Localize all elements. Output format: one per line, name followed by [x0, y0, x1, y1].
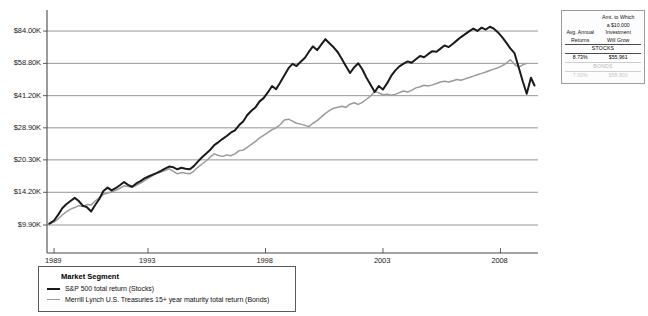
x-tick-label: 2003	[374, 256, 390, 265]
header-avg-annual-returns: Avg. Annual Returns	[565, 14, 595, 45]
segment-row-bonds: BONDS	[565, 63, 641, 72]
summary-table: Avg. Annual Returns Amt. to Which a $10,…	[561, 10, 645, 84]
stocks-amount-grown: $55,961	[595, 53, 641, 61]
summary-table-grid: Avg. Annual Returns Amt. to Which a $10,…	[565, 14, 641, 79]
legend-item-bonds[interactable]: Merrill Lynch U.S. Treasuries 15+ year m…	[47, 296, 289, 303]
x-tick-label: 1993	[139, 256, 155, 265]
chart-page: $84.00K$58.80K$41.20K$28.90K$20.30K$14.2…	[0, 0, 648, 316]
y-tick-label: $41.20K	[14, 91, 41, 100]
y-axis-ticks	[43, 31, 47, 225]
bonds-avg-annual-return: 7.93%	[565, 71, 595, 79]
legend-swatch-bonds-icon	[47, 299, 60, 300]
segment-label-bonds: BONDS	[565, 63, 641, 72]
legend-swatch-stocks-icon	[47, 288, 60, 290]
x-axis-ticks	[54, 248, 500, 253]
chart-plot	[0, 0, 545, 262]
gridlines	[47, 31, 538, 225]
x-tick-label: 1989	[45, 256, 61, 265]
chart-container: $84.00K$58.80K$41.20K$28.90K$20.30K$14.2…	[0, 0, 545, 262]
summary-table-header: Avg. Annual Returns Amt. to Which a $10,…	[565, 14, 641, 45]
stocks-avg-annual-return: 8.73%	[565, 53, 595, 61]
chart-legend: Market Segment S&P 500 total return (Sto…	[38, 266, 296, 312]
legend-label-bonds: Merrill Lynch U.S. Treasuries 15+ year m…	[65, 296, 269, 303]
series-bonds-line	[49, 60, 526, 224]
segment-row-stocks: STOCKS	[565, 45, 641, 54]
x-tick-label: 2008	[491, 256, 507, 265]
value-row-stocks: 8.73% $55,961	[565, 53, 641, 61]
y-tick-label: $14.20K	[14, 187, 41, 196]
legend-item-stocks[interactable]: S&P 500 total return (Stocks)	[47, 285, 289, 292]
legend-title: Market Segment	[61, 272, 289, 281]
y-tick-label: $9.90K	[18, 220, 41, 229]
summary-table-body-bonds: BONDS 7.93% $58,800	[565, 63, 641, 80]
bonds-amount-grown: $58,800	[595, 71, 641, 79]
value-row-bonds: 7.93% $58,800	[565, 71, 641, 79]
axis-lines	[47, 10, 538, 253]
y-tick-label: $84.00K	[14, 26, 41, 35]
summary-table-body: STOCKS 8.73% $55,961	[565, 45, 641, 63]
legend-label-stocks: S&P 500 total return (Stocks)	[65, 285, 154, 292]
header-amount-grown: Amt. to Which a $10,000 Investment Will …	[595, 14, 641, 45]
y-tick-label: $20.30K	[14, 155, 41, 164]
x-tick-label: 1998	[256, 256, 272, 265]
series-stocks-line	[49, 27, 534, 224]
y-tick-label: $58.80K	[14, 58, 41, 67]
segment-label-stocks: STOCKS	[565, 45, 641, 54]
y-tick-label: $28.90K	[14, 123, 41, 132]
